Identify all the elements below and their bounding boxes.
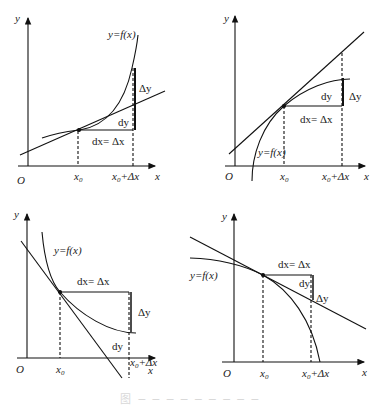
x0-label: x0	[73, 170, 83, 184]
y-label: y	[221, 210, 227, 222]
x-label: x	[361, 366, 367, 378]
panel-bottom-right	[190, 214, 366, 362]
x0dx-label: x0+Δx	[301, 367, 329, 381]
tangent-point	[59, 291, 62, 294]
dy-label: dy	[299, 277, 311, 289]
x0dx-label: x0+Δx	[321, 170, 349, 184]
labels-bottom-right: y x O y=f(x) x0 x0+Δx dx= Δx dy Δy	[189, 210, 367, 381]
origin-label: O	[225, 170, 233, 182]
curve-label: y=f(x)	[189, 269, 218, 282]
panel-bottom-left	[17, 214, 155, 378]
dx-label: dx= Δx	[92, 135, 125, 147]
dy-label: dy	[321, 90, 333, 102]
x-label: x	[363, 170, 369, 182]
x-label: x	[154, 170, 160, 182]
curve-label: y=f(x)	[257, 146, 286, 159]
x0dx-label: x0+Δx	[129, 356, 157, 370]
dx-label: dx= Δx	[77, 275, 110, 287]
origin-label: O	[17, 174, 25, 186]
tangent-point	[262, 274, 265, 277]
tangent-line	[190, 237, 366, 329]
dy-label: dy	[118, 116, 130, 128]
y-label: y	[14, 12, 20, 24]
dx-label: dx= Δx	[300, 113, 333, 125]
x0dx-label: x0+Δx	[111, 170, 139, 184]
curve-label: y=f(x)	[53, 244, 82, 257]
x0-label: x0	[279, 170, 289, 184]
y-label: y	[223, 12, 229, 24]
origin-label: O	[223, 367, 231, 379]
x0-label: x0	[259, 367, 269, 381]
Dy-label: Δy	[139, 82, 152, 94]
curve-label: y=f(x)	[107, 28, 136, 41]
figure-caption: 图 ─ ─ ─ ─ ─ ─ ─ ─ ─	[0, 390, 380, 406]
origin-label: O	[16, 363, 24, 375]
panel-top-right	[225, 16, 365, 181]
tangent-point	[78, 129, 81, 132]
dx-label: dx= Δx	[278, 258, 311, 270]
tangent-point	[283, 105, 286, 108]
Dy-label: Δy	[138, 306, 151, 318]
dy-label: dy	[112, 340, 124, 352]
y-label: y	[13, 208, 19, 220]
Dy-label: Δy	[316, 292, 329, 304]
Dy-label: Δy	[349, 90, 362, 102]
labels-top-right: y x O y=f(x) x0 x0+Δx dx= Δx dy Δy	[223, 12, 369, 184]
x0-label: x0	[55, 363, 65, 377]
